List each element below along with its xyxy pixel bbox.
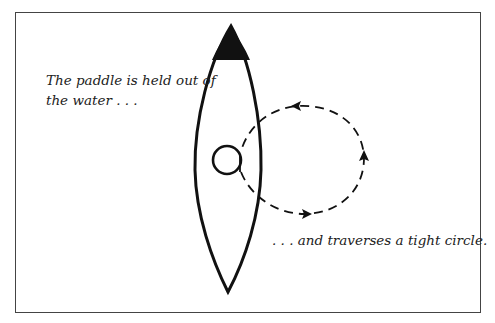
caption-tight-circle: . . . and traverses a tight circle. — [272, 230, 487, 250]
kayak-diagram — [0, 0, 495, 323]
caption-line-1: The paddle is held out of — [46, 70, 216, 90]
kayak-hull — [195, 26, 261, 292]
dashed-loop-path — [241, 106, 364, 214]
caption-paddle-out-of-water: The paddle is held out of the water . . … — [46, 70, 216, 110]
caption-line-2: the water . . . — [46, 90, 216, 110]
kayak-bow-fill — [212, 26, 250, 60]
arrow-left-icon — [291, 101, 301, 111]
paddle-circle — [213, 146, 241, 174]
